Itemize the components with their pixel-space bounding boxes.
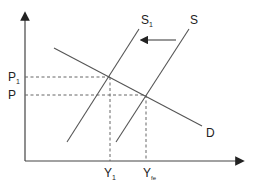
label-s1: S1	[141, 13, 153, 28]
supply-curve-s	[116, 29, 189, 142]
supply-curve-s1	[67, 29, 139, 142]
label-p: P	[8, 88, 16, 102]
demand-curve	[54, 48, 202, 126]
label-y1: Y1	[104, 166, 116, 181]
label-d: D	[206, 126, 215, 140]
label-s: S	[190, 13, 198, 27]
label-yfe: Yfe	[143, 166, 157, 181]
label-p1: P1	[8, 70, 20, 85]
supply-demand-diagram: S1 S D P1 P Y1 Yfe	[0, 0, 255, 184]
